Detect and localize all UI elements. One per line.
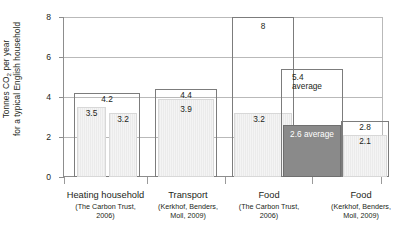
category-label-food-k-source-1: (Kerkhof, Benders, (317, 202, 405, 211)
category-label-food-ct-source-2: 2006) (224, 211, 314, 220)
gridline-8 (64, 17, 382, 18)
category-tick-3 (312, 177, 313, 184)
y-tick-label-0: 0 (46, 172, 51, 182)
x-axis-labels: Heating household (The Carbon Trust, 200… (64, 190, 382, 232)
category-label-heating: Heating household (The Carbon Trust, 200… (59, 190, 152, 220)
y-tick-label-2: 2 (46, 132, 51, 142)
y-axis-title: Tonnes CO2 per year for a typical Englis… (1, 0, 35, 159)
category-label-transport-title: Transport (149, 190, 227, 202)
category-tick-4 (381, 177, 382, 184)
category-label-transport-source-2: Moll, 2009) (149, 211, 227, 220)
y-tick-label-4: 4 (46, 92, 51, 102)
bar-heating-sub-b[interactable] (109, 113, 137, 177)
category-label-food-ct-title: Food (224, 190, 314, 202)
category-label-food-k-source-2: Moll, 2009) (317, 211, 405, 220)
y-tick-mark-2: 2 (59, 137, 64, 138)
category-label-heating-title: Heating household (59, 190, 152, 202)
category-label-heating-source-1: (The Carbon Trust, (59, 202, 152, 211)
category-tick-2 (225, 177, 226, 184)
category-tick-1 (147, 177, 148, 184)
category-label-food-k-title: Food (317, 190, 405, 202)
y-tick-mark-4: 4 (59, 97, 64, 98)
y-axis-title-line2: for a typical English household (12, 0, 23, 159)
y-axis-title-line1: Tonnes CO2 per year (1, 0, 12, 159)
bar-chart: Tonnes CO2 per year for a typical Englis… (0, 0, 405, 233)
category-label-transport: Transport (Kerkhof, Benders, Moll, 2009) (149, 190, 227, 220)
category-label-food-k: Food (Kerkhof, Benders, Moll, 2009) (317, 190, 405, 220)
bar-heating-sub-a[interactable] (77, 107, 106, 177)
y-tick-label-8: 8 (46, 12, 51, 22)
category-label-food-ct-source-1: (The Carbon Trust, (224, 202, 314, 211)
category-label-food-ct: Food (The Carbon Trust, 2006) (224, 190, 314, 220)
category-label-transport-source-1: (Kerkhof, Benders, (149, 202, 227, 211)
plot-area: 8 6 4 2 0 4.2 3.5 3.2 4.4 3.9 8 (64, 17, 382, 177)
gridline-6 (64, 57, 382, 58)
y-tick-mark-6: 6 (59, 57, 64, 58)
y-tick-label-6: 6 (46, 52, 51, 62)
y-tick-mark-8: 8 (59, 17, 64, 18)
bar-transport-sub[interactable] (158, 99, 214, 177)
bar-food-average-sub[interactable] (283, 125, 341, 177)
category-tick-0 (64, 177, 65, 184)
bar-food-k-sub[interactable] (343, 135, 387, 177)
category-label-heating-source-2: 2006) (59, 211, 152, 220)
